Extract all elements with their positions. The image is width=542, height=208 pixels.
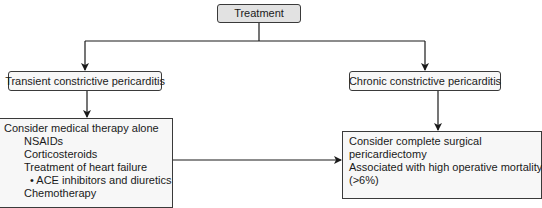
node-treatment: Treatment — [217, 4, 301, 23]
therapy-item-corticosteroids: Corticosteroids — [4, 148, 172, 161]
therapy-item-chemotherapy: Chemotherapy — [4, 187, 172, 200]
therapy-item-nsaids: NSAIDs — [4, 135, 172, 148]
therapy-subitem-ace-inhibitors: • ACE inhibitors and diuretics — [4, 174, 172, 187]
node-transient-constrictive-pericarditis: Transient constrictive pericarditis — [8, 71, 162, 91]
node-chronic-constrictive-pericarditis: Chronic constrictive pericarditis — [349, 71, 501, 91]
surgical-line-1: Consider complete surgical — [349, 135, 541, 148]
node-surgical-pericardiectomy: Consider complete surgical pericardiecto… — [342, 131, 542, 199]
node-chronic-label: Chronic constrictive pericarditis — [349, 75, 501, 88]
node-treatment-label: Treatment — [234, 7, 284, 20]
medical-therapy-heading: Consider medical therapy alone — [4, 122, 172, 135]
surgical-line-4: (>6%) — [349, 174, 541, 187]
node-medical-therapy: Consider medical therapy alone NSAIDs Co… — [0, 118, 173, 208]
surgical-line-3: Associated with high operative mortality — [349, 161, 541, 174]
therapy-item-heart-failure: Treatment of heart failure — [4, 161, 172, 174]
surgical-line-2: pericardiectomy — [349, 148, 541, 161]
node-transient-label: Transient constrictive pericarditis — [5, 75, 165, 88]
